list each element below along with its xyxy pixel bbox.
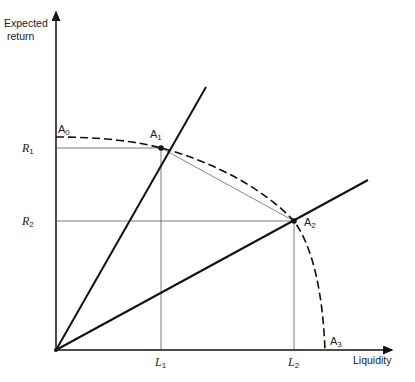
frontier-curve [56, 137, 325, 350]
y-axis-label-line1: Expected [4, 17, 48, 29]
label-a0: A0 [58, 123, 70, 137]
label-a3: A3 [330, 335, 342, 349]
liquidity-return-diagram: Expected return Liquidity A0 A1 A2 A3 R1… [0, 0, 415, 382]
tick-r1: R1 [21, 141, 34, 156]
origin [54, 348, 58, 352]
tick-l2: L2 [287, 355, 300, 370]
label-a2: A2 [304, 216, 316, 230]
ray-through-a2 [56, 180, 368, 350]
ray-through-a1 [56, 87, 206, 350]
y-axis-label-line2: return [7, 30, 35, 42]
tick-l1: L1 [154, 355, 167, 370]
point-a1 [158, 145, 164, 151]
label-a1: A1 [150, 128, 162, 142]
chord-a1-a2 [161, 148, 294, 221]
tick-r2: R2 [21, 214, 34, 229]
x-axis-label: Liquidity [353, 354, 392, 366]
point-a2 [291, 218, 297, 224]
